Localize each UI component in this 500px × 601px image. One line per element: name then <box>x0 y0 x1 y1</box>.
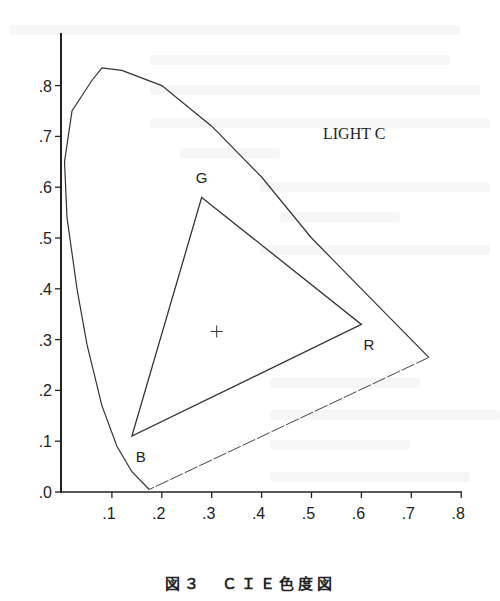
light-c-label: LIGHT C <box>323 125 385 142</box>
x-tick-label: .6 <box>352 505 365 522</box>
y-tick-label: .2 <box>39 382 52 399</box>
purple-line <box>149 357 429 489</box>
figure-caption: 図３ ＣＩＥ色度図 <box>0 572 500 593</box>
white-point-marker <box>211 325 223 337</box>
vertex-label-b: B <box>136 448 146 465</box>
y-tick-label: .6 <box>39 179 52 196</box>
x-tick-label: .1 <box>102 505 115 522</box>
y-axis-ticks: .0.1.2.3.4.5.6.7.8 <box>39 78 61 501</box>
x-tick-label: .8 <box>452 505 465 522</box>
x-tick-label: .5 <box>302 505 315 522</box>
x-tick-label: .3 <box>202 505 215 522</box>
y-tick-label: .8 <box>39 78 52 95</box>
vertex-label-g: G <box>196 169 208 186</box>
x-axis-ticks: .1.2.3.4.5.6.7.8 <box>102 492 465 522</box>
vertex-label-r: R <box>363 336 374 353</box>
y-tick-label: .1 <box>39 433 52 450</box>
cie-chromaticity-chart: .0.1.2.3.4.5.6.7.8 .1.2.3.4.5.6.7.8 GRB … <box>0 0 500 601</box>
y-tick-label: .0 <box>39 484 52 501</box>
y-tick-label: .3 <box>39 332 52 349</box>
x-tick-label: .2 <box>152 505 165 522</box>
vertex-labels: GRB <box>136 169 375 465</box>
y-tick-label: .4 <box>39 281 52 298</box>
x-tick-label: .4 <box>252 505 265 522</box>
y-tick-label: .7 <box>39 128 52 145</box>
x-tick-label: .7 <box>402 505 415 522</box>
rgb-gamut-triangle <box>132 197 362 436</box>
y-tick-label: .5 <box>39 230 52 247</box>
